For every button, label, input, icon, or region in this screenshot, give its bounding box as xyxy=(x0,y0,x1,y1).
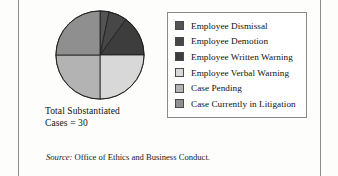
page-rule-right xyxy=(320,0,321,176)
legend-item: Case Currently in Litigation xyxy=(175,96,300,112)
legend-swatch-employee-verbal-warning xyxy=(175,68,184,77)
legend-item-label: Case Pending xyxy=(191,83,242,93)
legend-item: Employee Written Warning xyxy=(175,49,300,65)
legend-item: Employee Demotion xyxy=(175,34,300,50)
legend-swatch-employee-demotion xyxy=(175,37,184,46)
pie-chart-graphic xyxy=(55,10,145,100)
source-note: Source: Office of Ethics and Business Co… xyxy=(46,152,210,163)
legend-swatch-employee-dismissal xyxy=(175,21,184,30)
legend-swatch-employee-written-warning xyxy=(175,52,184,61)
legend-swatch-case-currently-in-litigation xyxy=(175,99,184,108)
pie-svg xyxy=(55,10,145,100)
legend-item-label: Employee Demotion xyxy=(191,36,268,46)
legend-item: Case Pending xyxy=(175,80,300,96)
legend-item: Employee Verbal Warning xyxy=(175,65,300,81)
source-text: Office of Ethics and Business Conduct. xyxy=(72,152,210,162)
pie-caption: Total Substantiated Cases = 30 xyxy=(39,106,161,129)
pie-chart-block: Total Substantiated Cases = 30 xyxy=(39,10,161,129)
pie-chart-figure: Total Substantiated Cases = 30 Employee … xyxy=(19,0,320,176)
pie-slice xyxy=(56,11,100,55)
figure-page: Total Substantiated Cases = 30 Employee … xyxy=(0,0,338,176)
pie-slice xyxy=(100,55,144,99)
legend-swatch-case-pending xyxy=(175,84,184,93)
chart-legend: Employee DismissalEmployee DemotionEmplo… xyxy=(167,12,307,118)
legend-item-label: Employee Dismissal xyxy=(191,21,268,31)
legend-item-label: Employee Verbal Warning xyxy=(191,68,289,78)
legend-item: Employee Dismissal xyxy=(175,18,300,34)
source-label: Source: xyxy=(46,152,72,162)
legend-item-label: Employee Written Warning xyxy=(191,52,293,62)
pie-caption-line-2: Cases = 30 xyxy=(45,118,161,130)
legend-item-label: Case Currently in Litigation xyxy=(191,99,296,109)
pie-slice xyxy=(56,55,100,99)
pie-caption-line-1: Total Substantiated xyxy=(45,106,161,118)
